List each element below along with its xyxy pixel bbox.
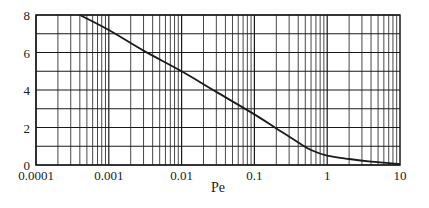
y-tick-label: 4: [24, 83, 31, 98]
y-tick-label: 6: [24, 46, 31, 61]
y-tick-label: 8: [24, 8, 31, 23]
x-tick-label: 0.1: [246, 168, 262, 183]
chart: 0.00010.0010.010.111002468 Pe: [0, 0, 429, 208]
x-axis-label: Pe: [211, 180, 225, 195]
grid: [36, 15, 400, 165]
x-tick-label: 1: [324, 168, 331, 183]
x-tick-label: 0.001: [94, 168, 123, 183]
y-tick-label: 0: [24, 158, 31, 173]
x-tick-label: 10: [394, 168, 407, 183]
y-tick-label: 2: [24, 121, 31, 136]
x-tick-label: 0.01: [170, 168, 193, 183]
